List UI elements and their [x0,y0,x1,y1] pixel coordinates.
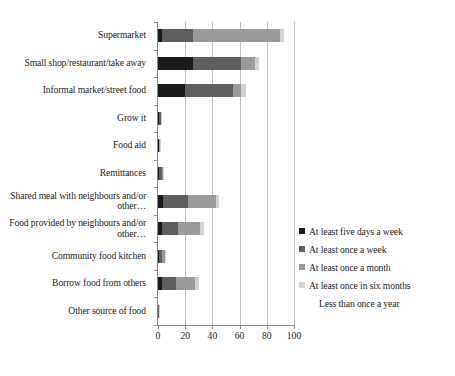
bar-segment [158,84,185,97]
x-axis-tick-label: 80 [252,330,282,341]
bar-segment [200,222,204,235]
x-axis-tick [267,325,268,329]
category-label: Supermarket [0,30,146,41]
bar-row [158,277,294,290]
legend-item[interactable]: At least once a month [299,258,451,276]
chart-legend: At least five days a weekAt least once a… [299,222,451,312]
x-axis-tick [158,325,159,329]
bar-row [158,167,294,180]
bar-segment [162,277,176,290]
y-axis-tick [154,132,158,133]
category-label: Borrow food from others [0,278,146,289]
legend-item[interactable]: Less than once a year [299,294,451,312]
bar-segment [280,29,284,42]
bar-segment [255,57,259,70]
bar-segment [185,84,233,97]
legend-swatch-icon [299,246,305,252]
axis-right-edge [294,22,295,325]
category-label: Food aid [0,140,146,151]
bar-segment [176,277,195,290]
bar-segment [165,250,166,263]
x-axis-tick [294,325,295,329]
category-label: Community food kitchen [0,251,146,262]
bar-row [158,112,294,125]
y-axis-tick [154,297,158,298]
bar-segment [159,305,160,318]
bar-row [158,250,294,263]
bar-segment [163,167,164,180]
bar-segment [195,277,199,290]
bar-row [158,305,294,318]
bar-segment [233,84,241,97]
y-axis-tick [154,215,158,216]
x-axis-tick [185,325,186,329]
bar-segment [162,29,193,42]
category-label: Other source of food [0,306,146,317]
bar-row [158,222,294,235]
bar-segment [161,112,162,125]
bar-row [158,84,294,97]
legend-swatch-icon [309,300,315,306]
bar-segment [162,222,178,235]
y-axis-tick [154,187,158,188]
x-axis-tick-label: 100 [279,330,309,341]
bar-row [158,195,294,208]
legend-label: Less than once a year [319,298,399,309]
x-axis-tick [240,325,241,329]
category-label: Small shop/restaurant/take away [0,58,146,69]
bar-segment [241,57,255,70]
bar-segment [158,57,193,70]
bar-segment [160,139,161,152]
legend-label: At least five days a week [309,226,403,237]
bar-segment [241,84,246,97]
x-axis-tick-label: 60 [225,330,255,341]
category-label: Shared meal with neighbours and/or other… [0,191,146,212]
x-axis-tick-label: 20 [170,330,200,341]
bar-row [158,57,294,70]
stacked-bar-chart: SupermarketSmall shop/restaurant/take aw… [0,0,455,376]
y-axis-tick [154,160,158,161]
plot-area: 020406080100 [157,22,294,326]
category-label: Grow it [0,113,146,124]
x-axis-tick [212,325,213,329]
legend-item[interactable]: At least once in six months [299,276,451,294]
bar-segment [188,195,217,208]
bar-segment [178,222,200,235]
y-axis-tick [154,77,158,78]
legend-label: At least once in six months [309,280,411,291]
legend-label: At least once a month [309,262,391,273]
category-label: Remittances [0,168,146,179]
category-label: Food provided by neighbours and/or other… [0,218,146,239]
legend-label: At least once a week [309,244,386,255]
category-label: Informal market/street food [0,85,146,96]
y-axis-tick [154,242,158,243]
bar-segment [216,195,219,208]
legend-item[interactable]: At least once a week [299,240,451,258]
x-axis-tick-label: 0 [143,330,173,341]
bar-segment [193,57,241,70]
bar-row [158,139,294,152]
y-axis-tick [154,50,158,51]
y-axis-tick [154,22,158,23]
y-axis-tick [154,105,158,106]
bar-row [158,29,294,42]
legend-item[interactable]: At least five days a week [299,222,451,240]
x-axis-tick-label: 40 [197,330,227,341]
legend-swatch-icon [299,228,305,234]
y-axis-tick [154,325,158,326]
bar-segment [163,195,187,208]
legend-swatch-icon [299,282,305,288]
bar-segment [193,29,280,42]
legend-swatch-icon [299,264,305,270]
y-axis-tick [154,270,158,271]
